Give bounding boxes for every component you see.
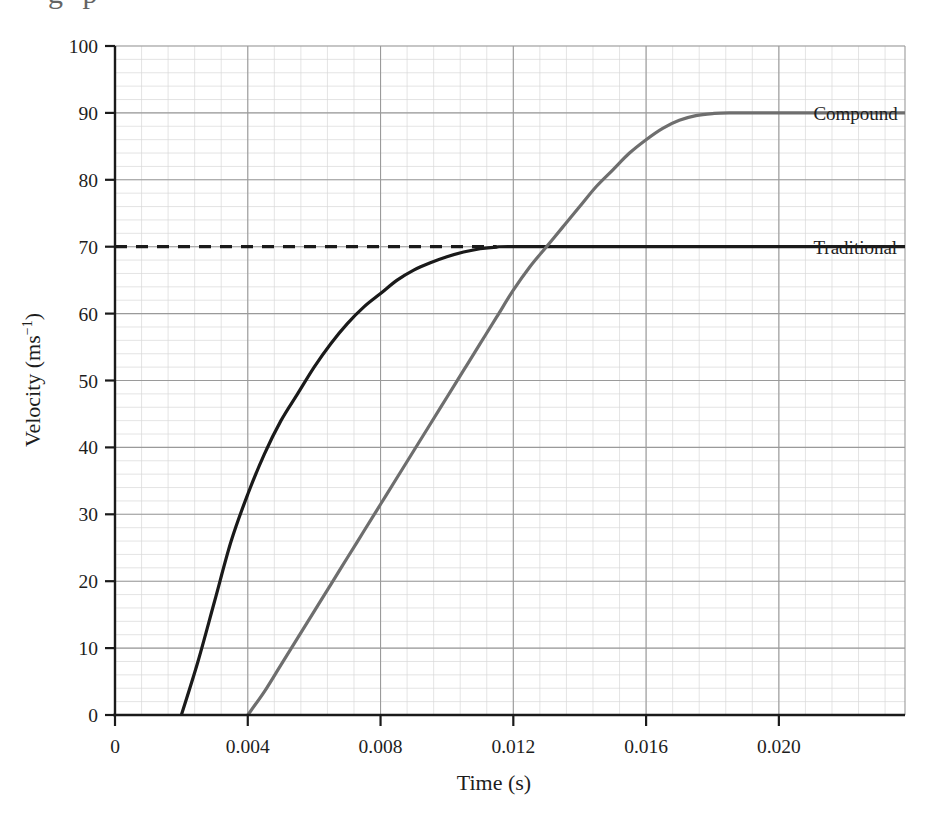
- y-axis-tick-label: 0: [88, 705, 98, 726]
- y-axis-tick-label: 90: [79, 103, 99, 124]
- x-axis-tick-label: 0.008: [359, 736, 403, 757]
- y-axis-tick-label: 10: [79, 638, 99, 659]
- series-label-compound: Compound: [813, 103, 898, 124]
- y-axis-title-main: Velocity (ms: [20, 335, 45, 447]
- x-axis-tick-label: 0.020: [757, 736, 801, 757]
- x-axis-tick-label: 0.016: [624, 736, 668, 757]
- x-axis-title: Time (s): [457, 770, 531, 795]
- chart-canvas: 0102030405060708090100 00.0040.0080.0120…: [0, 0, 934, 816]
- y-axis-tick-label: 30: [79, 504, 99, 525]
- series-label-traditional: Traditional: [813, 237, 897, 258]
- y-axis-title-exponent: −1: [20, 320, 35, 335]
- y-axis-tick-label: 60: [79, 304, 99, 325]
- y-axis-title-close: ): [20, 313, 45, 320]
- x-axis-tick-label: 0.004: [226, 736, 270, 757]
- y-axis-tick-label: 50: [79, 371, 99, 392]
- y-axis-tick-label: 20: [79, 571, 99, 592]
- x-axis-tick-label: 0: [110, 736, 120, 757]
- y-axis-tick-label: 40: [79, 437, 99, 458]
- chart-background: [0, 0, 934, 816]
- y-axis-tick-label: 70: [79, 237, 99, 258]
- y-axis-tick-label: 80: [79, 170, 99, 191]
- velocity-time-chart-figure: g p 0102030405060708090100 00.0040.0080.…: [0, 0, 934, 816]
- y-axis-tick-label: 100: [69, 36, 98, 57]
- x-axis-tick-label: 0.012: [491, 736, 535, 757]
